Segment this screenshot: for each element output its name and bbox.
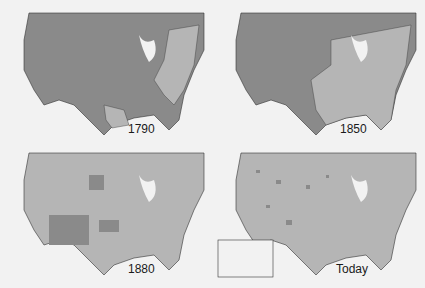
us-map-1850 [216,10,421,140]
map-1790: 1790 [4,10,209,140]
us-map-today [216,150,421,280]
us-map-1790 [4,10,209,140]
year-label: Today [336,262,368,276]
year-label: 1790 [128,122,155,136]
map-1850: 1850 [216,10,421,140]
map-today: Today [216,150,421,280]
year-label: 1880 [128,262,155,276]
year-label: 1850 [340,122,367,136]
map-1880: 1880 [4,150,209,280]
us-map-1880 [4,150,209,280]
alaska-hawaii-inset [218,240,273,277]
